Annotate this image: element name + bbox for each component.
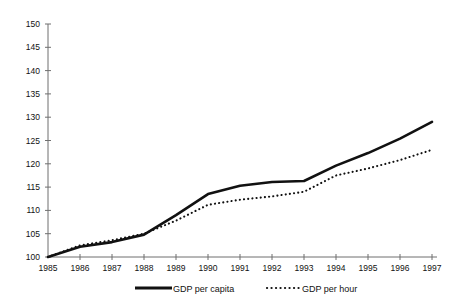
y-tick-label: 105	[26, 229, 40, 239]
y-tick-label: 125	[26, 136, 40, 146]
y-tick-label: 145	[26, 42, 40, 52]
y-tick-group: 100105110115120125130135140145150	[26, 19, 51, 262]
x-tick-label: 1995	[359, 263, 378, 273]
legend-label-gdp-per-capita: GDP per capita	[173, 284, 234, 294]
x-tick-label: 1990	[199, 263, 218, 273]
x-tick-label: 1987	[103, 263, 122, 273]
legend-label-gdp-per-hour: GDP per hour	[302, 284, 357, 294]
y-tick-label: 130	[26, 112, 40, 122]
legend: GDP per capita GDP per hour	[135, 284, 357, 294]
x-tick-label: 1994	[327, 263, 346, 273]
x-tick-label: 1996	[391, 263, 410, 273]
y-tick-label: 120	[26, 159, 40, 169]
y-tick-label: 110	[26, 205, 40, 215]
line-chart: 100105110115120125130135140145150 198519…	[0, 0, 458, 304]
x-tick-label: 1997	[423, 263, 442, 273]
series-group	[48, 122, 432, 257]
y-tick-label: 115	[26, 182, 40, 192]
y-tick-label: 140	[26, 66, 40, 76]
series-line-gdp-per-hour	[48, 150, 432, 257]
x-tick-label: 1993	[295, 263, 314, 273]
x-tick-label: 1992	[263, 263, 282, 273]
y-tick-label: 135	[26, 89, 40, 99]
x-tick-label: 1985	[39, 263, 58, 273]
y-tick-label: 100	[26, 252, 40, 262]
x-tick-label: 1989	[167, 263, 186, 273]
series-line-gdp-per-capita	[48, 122, 432, 257]
y-axis: 100105110115120125130135140145150	[26, 19, 51, 262]
x-tick-label: 1988	[135, 263, 154, 273]
x-axis: 1985198619871988198919901991199219931994…	[39, 254, 442, 273]
chart-container: 100105110115120125130135140145150 198519…	[0, 0, 458, 304]
x-tick-label: 1991	[231, 263, 250, 273]
y-tick-label: 150	[26, 19, 40, 29]
x-tick-label: 1986	[71, 263, 90, 273]
